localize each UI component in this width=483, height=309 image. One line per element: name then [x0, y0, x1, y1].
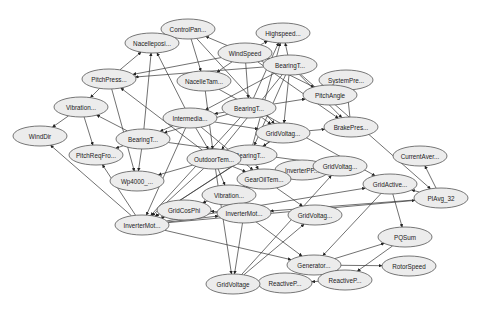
node-currentaver[interactable]: CurrentAver... — [393, 146, 447, 166]
node-layer: ControlPan...Nacelleposi...Highspeed...W… — [13, 19, 468, 294]
node-bearingt_mid[interactable]: BearingT... — [222, 98, 276, 118]
edge-piavg32-to-gridactive — [412, 190, 420, 192]
edge-gearoiltem-to-gridvoltag_lower — [277, 188, 303, 206]
bayesian-network-graph: ControlPan...Nacelleposi...Highspeed...W… — [0, 0, 483, 309]
node-invertermot_left[interactable]: InverterMot... — [115, 215, 169, 235]
edge-bearingt_center-to-gearoiltem — [256, 165, 259, 169]
edge-generator-to-pqsum — [335, 243, 384, 258]
node-reactivep_right[interactable]: ReactiveP... — [318, 270, 372, 290]
edge-bearingt_left-to-nacelleposi — [144, 53, 151, 129]
edge-outdoortem-to-gearoiltem — [232, 166, 245, 171]
node-label: GridCosPhi — [168, 207, 200, 214]
node-label: OutdoorTem... — [194, 156, 234, 163]
edge-invertermot_left-to-generator — [165, 230, 291, 259]
edge-vibration_left-to-winddir — [53, 116, 69, 127]
node-label: PitchAngle — [315, 92, 346, 100]
node-vibration_left[interactable]: Vibration... — [54, 97, 108, 117]
node-label: ReactiveP... — [328, 277, 361, 284]
edge-gridactive-to-pqsum — [393, 194, 402, 227]
node-gearoiltem[interactable]: GearOilTem... — [237, 169, 291, 189]
edge-pitchpress-to-nacelleposi — [120, 52, 141, 70]
node-label: ReactiveP... — [268, 280, 301, 287]
edge-bearingt_left-to-vibration_left — [97, 115, 128, 131]
node-label: GearOilTem... — [245, 176, 284, 183]
node-label: GridActive... — [373, 181, 408, 188]
edge-controlpan-to-nacelletam — [191, 39, 201, 71]
edge-bearingt_left-to-wp4000 — [138, 149, 141, 171]
node-gridvoltag_lower[interactable]: GridVoltag... — [288, 205, 342, 225]
node-pqsum[interactable]: PQSum — [378, 227, 432, 247]
node-label: InverterMot... — [225, 210, 262, 217]
node-label: SystemPre... — [328, 77, 364, 85]
edge-outdoortem-to-wp4000 — [158, 165, 192, 175]
node-gridvoltag_upper[interactable]: GridVoltag... — [256, 123, 310, 143]
edge-piavg32-to-currentaver — [425, 166, 436, 188]
node-outdoortem[interactable]: OutdoorTem... — [187, 149, 241, 169]
edge-windspeed-to-controlpan — [206, 37, 227, 46]
edge-windspeed-to-highspeed — [261, 41, 268, 45]
edge-bearingt_left-to-pitchreqfro — [116, 146, 123, 148]
node-gridcosphi[interactable]: GridCosPhi — [157, 200, 211, 220]
node-pitchpress[interactable]: PitchPress... — [82, 69, 136, 89]
node-label: Nacelleposi... — [133, 40, 171, 48]
node-label: WindSpeed — [229, 50, 262, 58]
node-wp4000[interactable]: Wp4000_... — [110, 171, 164, 191]
node-label: GridVoltag... — [298, 212, 333, 220]
node-label: PIAvg_32 — [427, 195, 455, 203]
node-label: RotorSpeed — [392, 263, 426, 271]
edge-bearingt_mid-to-pitchangle — [274, 99, 305, 104]
node-reactivep_left[interactable]: ReactiveP... — [258, 273, 312, 293]
node-label: WindDir — [29, 133, 51, 140]
node-nacelletam[interactable]: NacelleTam... — [177, 71, 231, 91]
node-label: BearingT... — [128, 136, 158, 144]
node-label: PQSum — [394, 234, 416, 242]
edge-pitchpress-to-vibration_left — [90, 88, 99, 97]
node-label: Vibration... — [66, 104, 96, 111]
node-label: Highspeed... — [265, 30, 301, 38]
edge-vibration_left-to-pitchreqfro — [84, 117, 93, 145]
node-label: GridVoltag... — [266, 130, 301, 138]
node-label: BrakePres... — [334, 124, 369, 131]
node-rotorspeed[interactable]: RotorSpeed — [382, 256, 436, 276]
edge-bearingt_mid-to-intermedia — [215, 112, 225, 114]
edge-bearingt_top-to-highspeed — [285, 43, 288, 55]
node-label: Intermedia... — [173, 115, 208, 122]
node-brakepres[interactable]: BrakePres... — [324, 117, 378, 137]
edge-intermedia-to-gridvoltag_upper — [215, 122, 258, 129]
node-label: PitchPress... — [91, 76, 127, 83]
node-label: GridVoltag... — [323, 163, 358, 171]
node-gridvoltage[interactable]: GridVoltage — [206, 274, 260, 294]
node-gridactive[interactable]: GridActive... — [363, 174, 417, 194]
node-label: Vibration... — [214, 192, 244, 199]
node-bearingt_top[interactable]: BearingT... — [263, 55, 317, 75]
node-label: Generator... — [297, 262, 331, 269]
node-pitchangle[interactable]: PitchAngle — [303, 85, 357, 105]
node-gridvoltag_midright[interactable]: GridVoltag... — [313, 156, 367, 176]
node-label: InverterMot... — [123, 222, 160, 229]
node-vibration_center[interactable]: Vibration... — [202, 185, 256, 205]
node-label: Wp4000_... — [121, 178, 153, 186]
edge-invertermot_center-to-gridvoltage — [235, 223, 243, 274]
edge-gridactive-to-generator — [323, 193, 381, 255]
node-windspeed[interactable]: WindSpeed — [218, 43, 272, 63]
node-nacelleposi[interactable]: Nacelleposi... — [125, 33, 179, 53]
node-piavg32[interactable]: PIAvg_32 — [414, 188, 468, 208]
node-label: PitchReqFro... — [76, 152, 116, 160]
node-intermedia[interactable]: Intermedia... — [163, 108, 217, 128]
node-highspeed[interactable]: Highspeed... — [256, 23, 310, 43]
node-label: GridVoltage — [217, 281, 250, 289]
node-winddir[interactable]: WindDir — [13, 126, 67, 146]
edge-gridvoltag_upper-to-brakepres — [309, 129, 324, 130]
node-label: ControlPan... — [170, 26, 207, 33]
node-pitchreqfro[interactable]: PitchReqFro... — [69, 145, 123, 165]
edge-intermedia-to-outdoortem — [196, 128, 209, 149]
node-label: BearingT... — [275, 62, 305, 70]
node-bearingt_left[interactable]: BearingT... — [116, 129, 170, 149]
node-label: BearingT... — [234, 105, 264, 113]
node-label: NacelleTam... — [185, 78, 223, 85]
node-label: CurrentAver... — [401, 153, 440, 160]
node-invertermot_center[interactable]: InverterMot... — [217, 203, 271, 223]
